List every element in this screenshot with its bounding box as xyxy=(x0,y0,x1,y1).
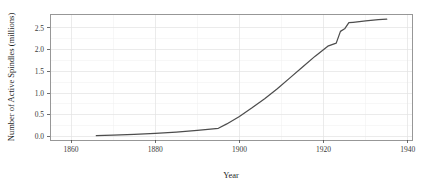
y-tick-label: 1.0 xyxy=(35,89,45,98)
y-axis-ticks: 0.00.51.01.52.02.5 xyxy=(35,24,50,142)
x-axis-ticks: 18601880190019201940 xyxy=(64,140,416,154)
y-axis-title: Number of Active Spindles (millions) xyxy=(6,13,16,142)
y-tick-label: 1.5 xyxy=(35,67,45,76)
x-tick-label: 1880 xyxy=(148,145,163,154)
line-chart-plot: 18601880190019201940 0.00.51.01.52.02.5 … xyxy=(0,0,430,185)
y-tick-label: 2.0 xyxy=(35,45,45,54)
chart-figure: 18601880190019201940 0.00.51.01.52.02.5 … xyxy=(0,0,430,185)
x-tick-label: 1940 xyxy=(400,145,415,154)
x-tick-label: 1920 xyxy=(316,145,331,154)
y-tick-label: 0.0 xyxy=(35,132,45,141)
y-tick-label: 2.5 xyxy=(35,24,45,33)
x-tick-label: 1900 xyxy=(232,145,247,154)
x-axis-title: Year xyxy=(223,170,239,180)
y-tick-label: 0.5 xyxy=(35,110,45,119)
x-tick-label: 1860 xyxy=(64,145,79,154)
